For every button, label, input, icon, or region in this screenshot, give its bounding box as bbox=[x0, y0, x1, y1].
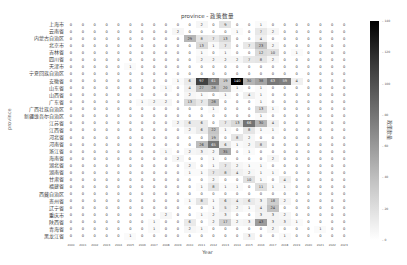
heatmap-cell: 0 bbox=[303, 233, 315, 240]
heatmap-cell: 0 bbox=[279, 21, 291, 28]
heatmap-cell: 0 bbox=[113, 42, 125, 49]
heatmap-cell: 0 bbox=[65, 63, 77, 70]
heatmap-cell: 0 bbox=[267, 92, 279, 99]
heatmap-cell: 0 bbox=[279, 49, 291, 56]
x-tick-label: 2001 bbox=[77, 243, 89, 247]
heatmap-cell: 0 bbox=[136, 85, 148, 92]
colorbar-tick: – 120 bbox=[382, 50, 390, 54]
heatmap-cell: 1 bbox=[255, 176, 267, 183]
heatmap-cell: 4 bbox=[243, 92, 255, 99]
heatmap-cell: 0 bbox=[148, 127, 160, 134]
heatmap-cell: 0 bbox=[314, 134, 326, 141]
x-tick-label: 2012 bbox=[208, 243, 220, 247]
row-label: 北京市 bbox=[49, 42, 64, 49]
heatmap-cell: 0 bbox=[279, 42, 291, 49]
heatmap-cell: 0 bbox=[77, 106, 89, 113]
heatmap-cell: 0 bbox=[338, 148, 350, 155]
heatmap-cell: 0 bbox=[231, 191, 243, 198]
heatmap-cell: 0 bbox=[77, 127, 89, 134]
heatmap-cell: 0 bbox=[231, 176, 243, 183]
heatmap-cell: 0 bbox=[148, 42, 160, 49]
heatmap-cell: 7 bbox=[243, 56, 255, 63]
heatmap-cell: 2 bbox=[172, 120, 184, 127]
heatmap-cell: 0 bbox=[172, 226, 184, 233]
heatmap-cell: 0 bbox=[314, 183, 326, 190]
heatmap-cell: 0 bbox=[89, 148, 101, 155]
heatmap-cell: 0 bbox=[148, 183, 160, 190]
heatmap-cell: 0 bbox=[148, 106, 160, 113]
heatmap-cell: 0 bbox=[267, 21, 279, 28]
heatmap-cell: 0 bbox=[101, 134, 113, 141]
heatmap-cell: 0 bbox=[172, 63, 184, 70]
heatmap-cell: 0 bbox=[291, 127, 303, 134]
heatmap-cell: 0 bbox=[124, 21, 136, 28]
heatmap-cell: 0 bbox=[314, 141, 326, 148]
heatmap-cell: 0 bbox=[160, 78, 172, 85]
heatmap-cell: 0 bbox=[172, 191, 184, 198]
heatmap-cell: 0 bbox=[65, 106, 77, 113]
heatmap-cell: 0 bbox=[136, 28, 148, 35]
heatmap-cell: 0 bbox=[314, 92, 326, 99]
row-label: 甘肃省 bbox=[49, 176, 64, 183]
colorbar-tick: – 140 bbox=[382, 19, 390, 23]
heatmap-cell: 0 bbox=[101, 127, 113, 134]
heatmap-cell: 1 bbox=[148, 226, 160, 233]
heatmap-cell: 0 bbox=[326, 162, 338, 169]
heatmap-cell: 0 bbox=[148, 141, 160, 148]
heatmap-cell: 0 bbox=[208, 233, 220, 240]
heatmap-cell: 0 bbox=[160, 70, 172, 77]
heatmap-cell: 0 bbox=[338, 99, 350, 106]
heatmap-cell: 0 bbox=[136, 70, 148, 77]
heatmap-cell: 1 bbox=[279, 183, 291, 190]
heatmap-cell: 6 bbox=[196, 127, 208, 134]
heatmap-cell: 0 bbox=[101, 233, 113, 240]
heatmap-cell: 0 bbox=[124, 78, 136, 85]
heatmap-cell: 0 bbox=[279, 191, 291, 198]
heatmap-cell: 0 bbox=[219, 99, 231, 106]
row-label: 广西壮族自治区 bbox=[29, 106, 64, 113]
heatmap-cell: 1 bbox=[267, 183, 279, 190]
heatmap-cell: 0 bbox=[314, 198, 326, 205]
heatmap-cell: 0 bbox=[89, 183, 101, 190]
heatmap-cell: 0 bbox=[136, 198, 148, 205]
heatmap-cell: 0 bbox=[291, 176, 303, 183]
heatmap-cell: 0 bbox=[303, 169, 315, 176]
heatmap-cell: 8 bbox=[243, 127, 255, 134]
heatmap-cell: 0 bbox=[196, 191, 208, 198]
heatmap-cell: 0 bbox=[65, 78, 77, 85]
heatmap-cell: 4 bbox=[291, 78, 303, 85]
heatmap-cell: 0 bbox=[314, 219, 326, 226]
colorbar-tick: – 100 bbox=[382, 82, 390, 86]
heatmap-cell: 0 bbox=[314, 127, 326, 134]
heatmap-cell: 6 bbox=[219, 198, 231, 205]
heatmap-cell: 2 bbox=[267, 226, 279, 233]
heatmap-cell: 2 bbox=[243, 169, 255, 176]
row-label: 重庆市 bbox=[49, 212, 64, 219]
x-tick-label: 2011 bbox=[196, 243, 208, 247]
heatmap-cell: 13 bbox=[219, 35, 231, 42]
heatmap-cell: 0 bbox=[89, 106, 101, 113]
heatmap-cell: 0 bbox=[303, 155, 315, 162]
colorbar-tick: – 0 bbox=[382, 238, 386, 242]
heatmap-cell: 19 bbox=[208, 134, 220, 141]
heatmap-cell: 0 bbox=[101, 169, 113, 176]
heatmap-cell: 1 bbox=[196, 212, 208, 219]
heatmap-cell: 2 bbox=[243, 134, 255, 141]
heatmap-cell: 0 bbox=[101, 78, 113, 85]
heatmap-cell: 3 bbox=[243, 233, 255, 240]
heatmap-cell: 0 bbox=[113, 169, 125, 176]
heatmap-cell: 0 bbox=[65, 183, 77, 190]
heatmap-cell: 0 bbox=[124, 99, 136, 106]
heatmap-cell: 0 bbox=[89, 113, 101, 120]
heatmap-cell: 0 bbox=[101, 212, 113, 219]
heatmap-cell: 0 bbox=[113, 212, 125, 219]
heatmap-cell: 0 bbox=[184, 141, 196, 148]
heatmap-cell: 0 bbox=[279, 205, 291, 212]
heatmap-cell: 0 bbox=[314, 56, 326, 63]
heatmap-cell: 0 bbox=[101, 113, 113, 120]
heatmap-cell: 0 bbox=[243, 226, 255, 233]
heatmap-cell: 0 bbox=[279, 134, 291, 141]
heatmap-cell: 0 bbox=[65, 120, 77, 127]
heatmap-cell: 0 bbox=[291, 134, 303, 141]
heatmap-cell: 0 bbox=[338, 49, 350, 56]
